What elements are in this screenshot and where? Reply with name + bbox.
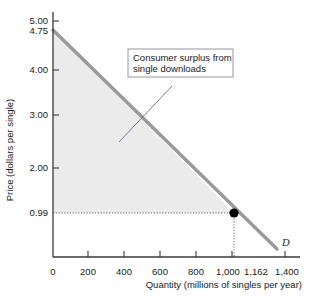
x-tick-label-800: 800 bbox=[188, 266, 204, 277]
x-tick-label-1400: 1,400 bbox=[275, 266, 299, 277]
chart-figure: 5.00 4.75 4.00 3.00 2.00 0.99 0 200 400 … bbox=[0, 0, 311, 303]
x-tick-label-0: 0 bbox=[50, 266, 55, 277]
x-tick-label-600: 600 bbox=[152, 266, 168, 277]
annotation-line-2: single downloads bbox=[133, 63, 206, 74]
y-tick-label-400: 4.00 bbox=[30, 64, 49, 75]
demand-curve-label: D bbox=[281, 237, 290, 248]
annotation-line-1: Consumer surplus from bbox=[133, 52, 232, 63]
x-axis-title: Quantity (millions of singles per year) bbox=[146, 279, 302, 290]
x-axis-ticks bbox=[88, 251, 285, 257]
consumer-surplus-chart: 5.00 4.75 4.00 3.00 2.00 0.99 0 200 400 … bbox=[0, 0, 311, 303]
y-tick-label-300: 3.00 bbox=[30, 109, 49, 120]
x-tick-label-1000: 1,000 bbox=[216, 266, 240, 277]
x-tick-label-1162: 1,162 bbox=[244, 266, 268, 277]
y-axis-title: Price (dollars per single) bbox=[4, 99, 15, 201]
y-tick-label-475: 4.75 bbox=[30, 25, 49, 36]
x-tick-label-200: 200 bbox=[80, 266, 96, 277]
equilibrium-point bbox=[229, 208, 238, 217]
y-tick-label-200: 2.00 bbox=[30, 162, 49, 173]
x-tick-label-400: 400 bbox=[116, 266, 132, 277]
y-tick-label-099: 0.99 bbox=[30, 207, 49, 218]
